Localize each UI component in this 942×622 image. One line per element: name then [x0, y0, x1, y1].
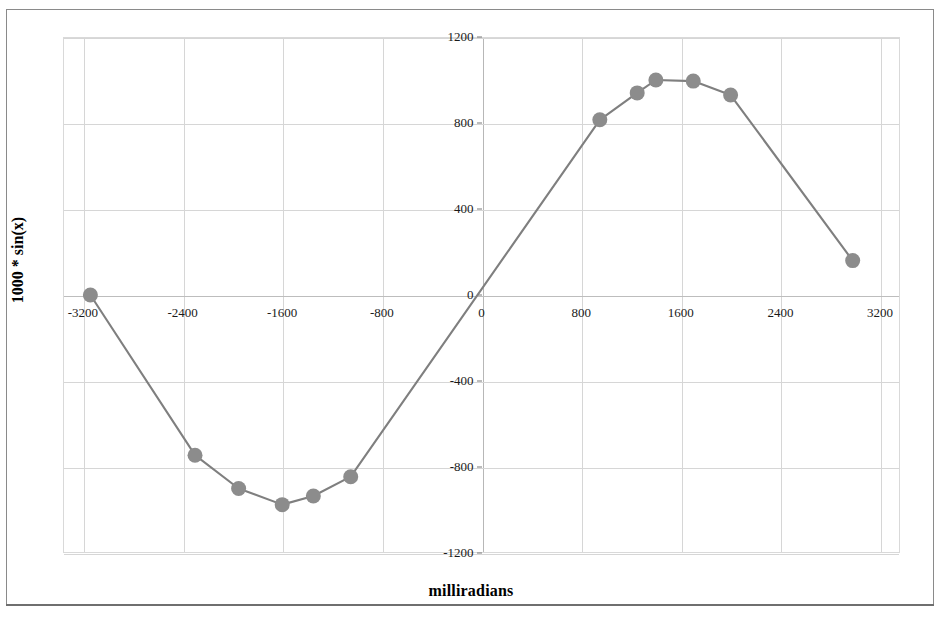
- gridline-vertical: [582, 38, 583, 552]
- y-tick-label: 800: [424, 115, 474, 131]
- gridline-horizontal: [64, 38, 899, 39]
- y-tick-mark: [477, 295, 482, 296]
- x-axis-title: milliradians: [0, 582, 942, 600]
- y-tick-label: -400: [424, 373, 474, 389]
- gridline-vertical: [383, 38, 384, 552]
- gridline-vertical: [184, 38, 185, 552]
- y-tick-label: 1200: [424, 29, 474, 45]
- gridline-horizontal: [64, 382, 899, 383]
- y-axis-title: 1000 * sin(x): [9, 125, 27, 395]
- chart-figure: 12008004000-400-800-1200-3200-2400-1600-…: [0, 0, 942, 622]
- gridline-horizontal: [64, 554, 899, 555]
- x-tick-label: -3200: [68, 305, 98, 321]
- y-tick-label: 400: [424, 201, 474, 217]
- y-tick-mark: [477, 553, 482, 554]
- y-tick-label: 0: [424, 287, 474, 303]
- gridline-vertical: [84, 38, 85, 552]
- x-tick-label: 800: [571, 305, 591, 321]
- x-tick-label: 1600: [668, 305, 694, 321]
- gridline-horizontal: [64, 468, 899, 469]
- gridline-vertical: [283, 38, 284, 552]
- gridline-vertical: [881, 38, 882, 552]
- x-tick-label: -2400: [167, 305, 197, 321]
- x-tick-label: 2400: [767, 305, 793, 321]
- x-tick-label: 0: [478, 305, 485, 321]
- y-tick-mark: [477, 37, 482, 38]
- gridline-horizontal: [64, 124, 899, 125]
- y-tick-label: -800: [424, 459, 474, 475]
- gridline-vertical: [682, 38, 683, 552]
- plot-area: [63, 37, 900, 553]
- y-tick-mark: [477, 209, 482, 210]
- x-tick-label: 3200: [867, 305, 893, 321]
- x-tick-label: -800: [370, 305, 394, 321]
- y-tick-mark: [477, 467, 482, 468]
- y-tick-mark: [477, 123, 482, 124]
- y-tick-mark: [477, 381, 482, 382]
- y-axis-line: [483, 38, 484, 552]
- gridline-vertical: [781, 38, 782, 552]
- gridline-horizontal: [64, 210, 899, 211]
- x-tick-label: -1600: [267, 305, 297, 321]
- x-axis-line: [64, 296, 899, 297]
- y-tick-label: -1200: [424, 545, 474, 561]
